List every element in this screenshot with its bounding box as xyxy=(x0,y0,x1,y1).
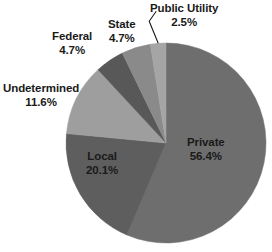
slice-label-name: Federal xyxy=(52,30,92,44)
slice-label-name: Undetermined xyxy=(3,82,79,96)
slice-label-value: 4.7% xyxy=(52,44,92,58)
slice-label-value: 56.4% xyxy=(187,150,225,164)
pie-chart-canvas xyxy=(0,0,272,252)
slice-label-value: 2.5% xyxy=(150,16,218,30)
slice-label-name: State xyxy=(108,18,136,32)
slice-label-name: Private xyxy=(187,136,225,150)
slice-label-local: Local 20.1% xyxy=(86,150,118,177)
slice-label-public-utility: Public Utility 2.5% xyxy=(150,2,218,29)
slice-label-private: Private 56.4% xyxy=(187,136,225,163)
slice-label-name: Local xyxy=(86,150,118,164)
pie-slice-group xyxy=(66,43,266,243)
slice-label-value: 11.6% xyxy=(3,96,79,110)
slice-label-undetermined: Undetermined 11.6% xyxy=(3,82,79,109)
slice-label-federal: Federal 4.7% xyxy=(52,30,92,57)
slice-label-value: 4.7% xyxy=(108,32,136,46)
slice-label-name: Public Utility xyxy=(150,2,218,16)
slice-label-state: State 4.7% xyxy=(108,18,136,45)
slice-label-value: 20.1% xyxy=(86,164,118,178)
pie-chart: Public Utility 2.5% State 4.7% Federal 4… xyxy=(0,0,272,252)
